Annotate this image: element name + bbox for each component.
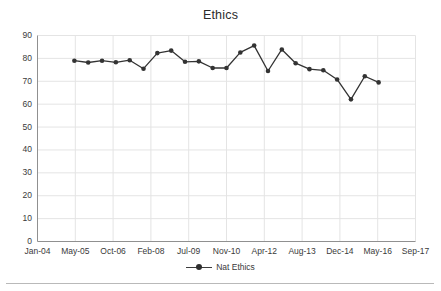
- y-tick-label: 10: [6, 213, 32, 223]
- bottom-divider: [6, 283, 434, 284]
- data-point-marker: [335, 77, 340, 82]
- data-point-marker: [362, 74, 367, 79]
- data-point-marker: [293, 61, 298, 66]
- y-tick-label: 0: [6, 236, 32, 246]
- data-point-marker: [86, 60, 91, 65]
- data-point-marker: [321, 68, 326, 73]
- chart-container: Ethics 0102030405060708090 Jan-04May-05O…: [0, 0, 441, 291]
- data-point-marker: [127, 58, 132, 63]
- y-tick-label: 40: [6, 144, 32, 154]
- chart-legend: Nat Ethics: [0, 262, 441, 272]
- data-point-marker: [72, 58, 77, 63]
- data-point-marker: [238, 50, 243, 55]
- data-point-marker: [224, 66, 229, 71]
- y-tick-label: 70: [6, 76, 32, 86]
- y-tick-label: 90: [6, 30, 32, 40]
- data-point-marker: [252, 43, 257, 48]
- x-tick-label: Sep-17: [393, 246, 439, 256]
- data-point-marker: [307, 67, 312, 72]
- legend-label-nat-ethics: Nat Ethics: [216, 262, 255, 272]
- y-tick-label: 20: [6, 190, 32, 200]
- data-point-marker: [100, 58, 105, 63]
- y-tick-label: 60: [6, 99, 32, 109]
- data-point-marker: [280, 47, 285, 52]
- data-point-marker: [183, 60, 188, 65]
- data-point-marker: [155, 51, 160, 56]
- data-point-marker: [349, 97, 354, 102]
- y-tick-label: 80: [6, 53, 32, 63]
- data-point-marker: [169, 48, 174, 53]
- data-point-marker: [197, 59, 202, 64]
- data-point-marker: [266, 69, 271, 74]
- data-point-marker: [376, 80, 381, 85]
- data-point-marker: [141, 66, 146, 71]
- y-tick-label: 50: [6, 122, 32, 132]
- data-point-marker: [114, 60, 119, 65]
- y-tick-label: 30: [6, 167, 32, 177]
- data-point-marker: [210, 66, 215, 71]
- legend-marker-nat-ethics: [186, 263, 212, 272]
